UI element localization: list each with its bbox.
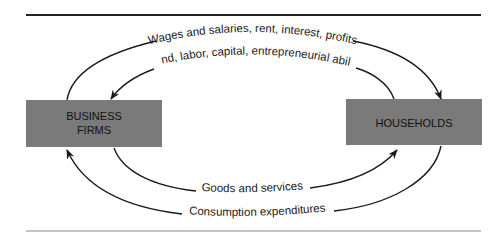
wages-arrow-left-segment xyxy=(67,41,156,100)
resources-arrow-right-segment xyxy=(356,68,394,99)
goods-arrow-left-segment xyxy=(114,148,196,191)
resources-arrow-left-segment xyxy=(111,69,154,99)
goods-arrow-right-segment xyxy=(310,150,397,188)
expenditures-flow-label: Consumption expenditures xyxy=(189,201,326,217)
goods-flow-label: Goods and services xyxy=(201,179,303,194)
wages-arrow-right-segment xyxy=(353,41,441,99)
circular-flow-diagram: BUSINESS FIRMS HOUSEHOLDS Wages and sala… xyxy=(0,0,501,241)
business-firms-label-line2: FIRMS xyxy=(77,124,111,136)
households-label: HOUSEHOLDS xyxy=(375,117,452,129)
wages-flow-label: Wages and salaries, rent, interest, prof… xyxy=(147,22,359,46)
expenditures-arrow-left-segment xyxy=(67,150,182,214)
expenditures-arrow-right-segment xyxy=(334,146,441,211)
business-firms-label-line1: BUSINESS xyxy=(66,110,122,122)
